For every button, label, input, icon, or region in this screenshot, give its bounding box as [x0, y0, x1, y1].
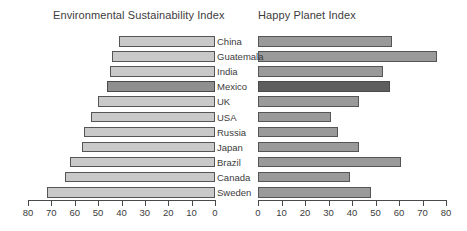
bar-row — [258, 94, 446, 109]
axis-tick-label: 80 — [441, 207, 452, 218]
bar-row — [28, 170, 215, 185]
bar-canada — [258, 172, 350, 183]
bar-china — [119, 36, 215, 47]
bar-row — [258, 170, 446, 185]
bar-sweden — [47, 187, 215, 198]
right-panel-title: Happy Planet Index — [258, 9, 356, 21]
axis-tick-label: 20 — [163, 207, 174, 218]
bar-row — [258, 34, 446, 49]
category-label-japan: Japan — [217, 140, 243, 155]
bar-row — [258, 185, 446, 200]
axis-tick-label: 10 — [276, 207, 287, 218]
axis-tick-label: 70 — [417, 207, 428, 218]
axis-tick-label: 30 — [323, 207, 334, 218]
axis-tick-label: 50 — [370, 207, 381, 218]
axis-tick — [258, 201, 259, 206]
axis-tick — [168, 201, 169, 206]
category-label-uk: UK — [217, 94, 230, 109]
axis-tick — [329, 201, 330, 206]
axis-tick — [145, 201, 146, 206]
category-label-russia: Russia — [217, 125, 246, 140]
bar-row — [258, 155, 446, 170]
axis-tick-label: 10 — [186, 207, 197, 218]
bar-row — [258, 125, 446, 140]
axis-tick — [215, 201, 216, 206]
hpi-plot-area — [258, 34, 446, 200]
bar-row — [258, 110, 446, 125]
bar-row — [28, 64, 215, 79]
axis-tick — [122, 201, 123, 206]
bar-sweden — [258, 187, 371, 198]
esi-plot-area — [28, 34, 215, 200]
bar-guatemala — [258, 51, 437, 62]
bar-japan — [258, 142, 359, 153]
axis-tick-label: 60 — [69, 207, 80, 218]
bar-row — [28, 110, 215, 125]
axis-tick — [446, 201, 447, 206]
category-label-mexico: Mexico — [217, 79, 247, 94]
bar-mexico — [107, 81, 215, 92]
bar-russia — [84, 127, 215, 138]
bar-row — [28, 140, 215, 155]
bar-india — [258, 66, 383, 77]
axis-tick-label: 80 — [23, 207, 34, 218]
bar-row — [258, 64, 446, 79]
bar-row — [28, 49, 215, 64]
axis-tick — [51, 201, 52, 206]
left-panel-title: Environmental Sustainability Index — [53, 9, 225, 21]
paired-bar-chart-figure: Environmental Sustainability Index Happy… — [0, 0, 467, 231]
axis-tick — [282, 201, 283, 206]
axis-tick-label: 40 — [116, 207, 127, 218]
axis-tick-label: 0 — [255, 207, 260, 218]
bar-japan — [82, 142, 215, 153]
bar-uk — [258, 96, 359, 107]
axis-tick-label: 0 — [212, 207, 217, 218]
axis-tick — [28, 201, 29, 206]
category-label-brazil: Brazil — [217, 155, 241, 170]
bar-row — [258, 49, 446, 64]
axis-tick — [305, 201, 306, 206]
axis-tick — [192, 201, 193, 206]
axis-tick-label: 70 — [46, 207, 57, 218]
bar-row — [28, 125, 215, 140]
bar-row — [28, 185, 215, 200]
category-label-usa: USA — [217, 110, 237, 125]
axis-tick — [75, 201, 76, 206]
axis-tick-label: 60 — [394, 207, 405, 218]
axis-tick-label: 30 — [140, 207, 151, 218]
axis-tick-label: 20 — [300, 207, 311, 218]
bar-canada — [65, 172, 215, 183]
category-label-sweden: Sweden — [217, 185, 251, 200]
bar-usa — [258, 112, 331, 123]
category-label-column: ChinaGuatemalaIndiaMexicoUKUSARussiaJapa… — [217, 34, 257, 200]
bar-row — [28, 155, 215, 170]
category-label-india: India — [217, 64, 238, 79]
bar-row — [258, 140, 446, 155]
bar-russia — [258, 127, 338, 138]
bar-row — [258, 79, 446, 94]
bar-row — [28, 79, 215, 94]
bar-row — [28, 94, 215, 109]
axis-tick — [423, 201, 424, 206]
bar-usa — [91, 112, 215, 123]
category-label-china: China — [217, 34, 242, 49]
axis-tick — [399, 201, 400, 206]
category-label-guatemala: Guatemala — [217, 49, 263, 64]
bar-guatemala — [112, 51, 215, 62]
axis-tick — [98, 201, 99, 206]
axis-tick — [352, 201, 353, 206]
bar-brazil — [258, 157, 401, 168]
bar-row — [28, 34, 215, 49]
bar-uk — [98, 96, 215, 107]
axis-tick-label: 50 — [93, 207, 104, 218]
esi-x-axis — [28, 200, 216, 206]
bar-china — [258, 36, 392, 47]
axis-tick-label: 40 — [347, 207, 358, 218]
bar-brazil — [70, 157, 215, 168]
category-label-canada: Canada — [217, 170, 250, 185]
bar-mexico — [258, 81, 390, 92]
hpi-x-axis — [258, 200, 447, 206]
axis-tick — [376, 201, 377, 206]
bar-india — [110, 66, 215, 77]
